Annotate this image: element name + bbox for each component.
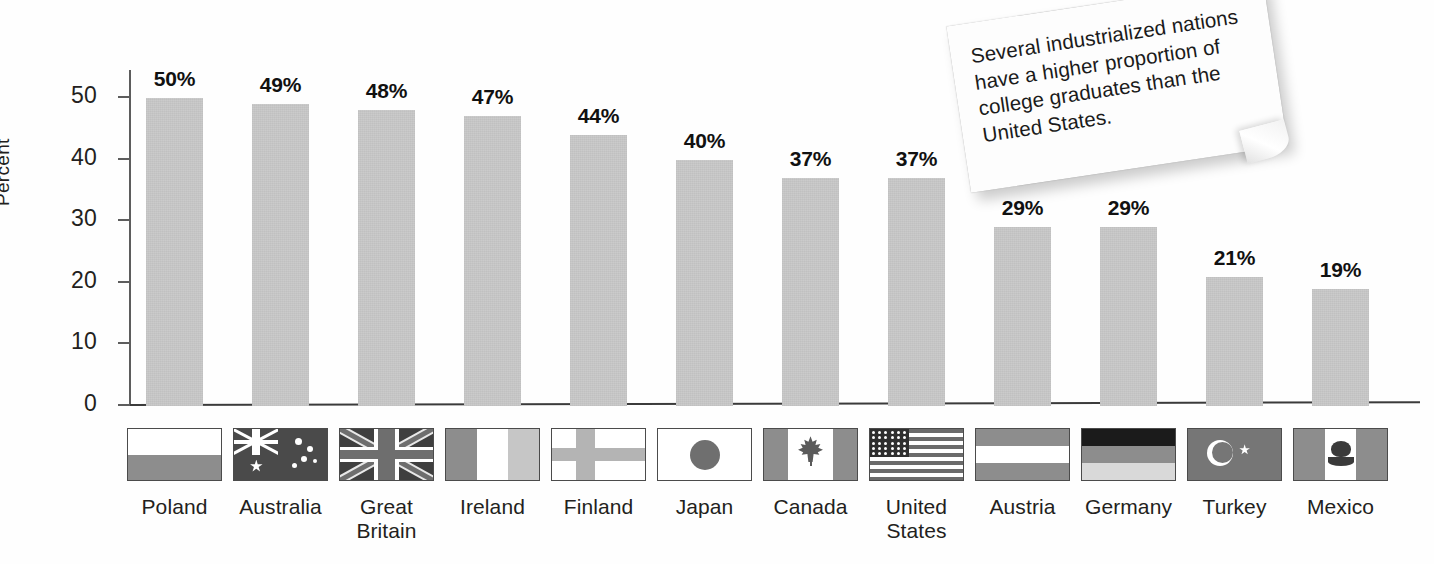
bar-value-label: 29% [1087, 196, 1171, 220]
bar [782, 178, 839, 406]
y-tick-mark [118, 158, 130, 160]
flag-star [884, 447, 887, 450]
y-tick-label: 30 [37, 205, 97, 232]
country-label: Poland [122, 495, 228, 519]
country-label: Ireland [440, 495, 546, 519]
bar [1100, 227, 1157, 406]
flag-emblem-eagle [1331, 441, 1351, 457]
y-tick-label: 40 [37, 144, 97, 171]
bar-value-label: 29% [981, 196, 1065, 220]
flag-stripe [833, 429, 857, 480]
flag-star [878, 431, 881, 434]
y-tick-label: 0 [37, 390, 97, 417]
flag-star [878, 436, 881, 439]
flag-cross-v [576, 429, 595, 480]
flag-star [903, 442, 906, 445]
y-tick-label: 50 [37, 82, 97, 109]
flag-star [292, 463, 297, 468]
flag-stripe [128, 429, 221, 455]
bar-value-label: 19% [1299, 258, 1383, 282]
flag-germany-icon [1081, 428, 1176, 481]
bar [464, 116, 521, 406]
flag-star [301, 456, 307, 462]
flag-star [872, 431, 875, 434]
flag-cell: Ireland [440, 428, 546, 519]
flag-cell: Germany [1076, 428, 1182, 519]
flag-star [878, 447, 881, 450]
flag-star [884, 442, 887, 445]
bar-value-label: 40% [663, 129, 747, 153]
flag-disc [690, 440, 720, 470]
flag-cell: Austria [970, 428, 1076, 519]
bar-value-label: 44% [557, 104, 641, 128]
flag-stripe [1082, 446, 1175, 463]
flag-star [903, 447, 906, 450]
country-label: Austria [970, 495, 1076, 519]
flag-star [897, 447, 900, 450]
flag-stripe [477, 429, 508, 480]
flag-japan-icon [657, 428, 752, 481]
flag-cell: Finland [546, 428, 652, 519]
flag-cell: United States [864, 428, 970, 544]
flag-star [891, 452, 894, 455]
bar-value-label: 50% [133, 67, 217, 91]
country-label: Germany [1076, 495, 1182, 519]
flag-star [884, 452, 887, 455]
flag-star [872, 452, 875, 455]
flag-canada-icon [763, 428, 858, 481]
y-tick-label: 10 [37, 328, 97, 355]
flag-cross-v [252, 429, 260, 455]
flag-star [891, 431, 894, 434]
flag-star [872, 442, 875, 445]
bar [252, 104, 309, 406]
flag-star [891, 442, 894, 445]
flag-stripe [128, 455, 221, 481]
flag-cell: Poland [122, 428, 228, 519]
country-label: Canada [758, 495, 864, 519]
bar-value-label: 47% [451, 85, 535, 109]
flag-cell: Turkey [1182, 428, 1288, 519]
flag-star [307, 446, 313, 452]
country-label: United States [864, 495, 970, 544]
bar-value-label: 37% [769, 147, 853, 171]
country-label: Turkey [1182, 495, 1288, 519]
bar-value-label: 49% [239, 73, 323, 97]
country-label: Great Britain [334, 495, 440, 544]
flag-finland-icon [551, 428, 646, 481]
flag-stripe [1082, 463, 1175, 480]
flag-emblem-wreath [1328, 457, 1354, 466]
flag-star [903, 431, 906, 434]
country-label: Japan [652, 495, 758, 519]
flag-cross-v-inner [378, 429, 395, 480]
flag-stripe [446, 429, 477, 480]
country-label: Mexico [1288, 495, 1394, 519]
y-tick-mark [118, 404, 130, 406]
bar-value-label: 37% [875, 147, 959, 171]
flag-star [897, 452, 900, 455]
country-label: Finland [546, 495, 652, 519]
flag-austria-icon [975, 428, 1070, 481]
bar [888, 178, 945, 406]
flag-great-britain-icon [339, 428, 434, 481]
y-tick-mark [118, 219, 130, 221]
flag-australia-icon [233, 428, 328, 481]
y-tick-mark [118, 342, 130, 344]
flag-cell: Great Britain [334, 428, 440, 544]
flag-cell: Australia [228, 428, 334, 519]
flag-star [891, 447, 894, 450]
bar [358, 110, 415, 406]
flag-stripe [1082, 429, 1175, 446]
bar-value-label: 21% [1193, 246, 1277, 270]
y-tick-label: 20 [37, 267, 97, 294]
flag-star [884, 436, 887, 439]
flag-canton [870, 429, 909, 457]
flag-cell: Mexico [1288, 428, 1394, 519]
bar [1312, 289, 1369, 406]
flag-star [891, 436, 894, 439]
flag-stripe [1356, 429, 1387, 480]
flag-star [313, 459, 317, 463]
bar [570, 135, 627, 406]
flag-turkey-icon [1187, 428, 1282, 481]
bar [146, 98, 203, 406]
flag-star [878, 442, 881, 445]
